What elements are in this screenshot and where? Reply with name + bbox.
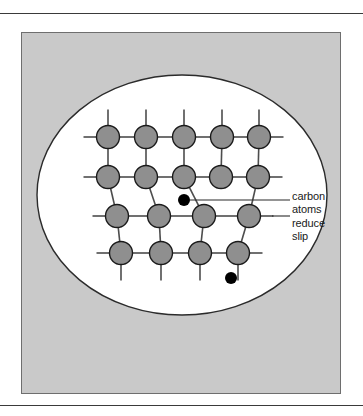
carbon-atom	[225, 272, 237, 284]
metal-atom	[150, 242, 173, 265]
metal-atom	[210, 166, 233, 189]
metal-atom	[248, 126, 271, 149]
label-line-3: reduce	[292, 217, 362, 230]
metal-atom	[110, 242, 133, 265]
carbon-atoms-label: carbon atoms reduce slip	[292, 190, 362, 244]
metal-atom	[238, 205, 261, 228]
label-line-1: carbon	[292, 190, 362, 203]
carbon-atom	[178, 194, 190, 206]
metal-atom	[173, 166, 196, 189]
metal-atom	[247, 166, 270, 189]
metal-atom	[148, 205, 171, 228]
figure-page: carbon atoms reduce slip	[0, 0, 363, 416]
metal-atom	[97, 126, 120, 149]
metal-atom	[135, 126, 158, 149]
metal-atom	[189, 242, 212, 265]
bond-line	[160, 227, 161, 241]
bottom-horizontal-rule	[0, 405, 363, 406]
metal-atom	[97, 166, 120, 189]
metal-atom	[227, 242, 250, 265]
metal-atom	[211, 126, 234, 149]
metal-atom	[173, 126, 196, 149]
label-line-2: atoms	[292, 203, 362, 216]
metal-atom	[193, 205, 216, 228]
metal-atom	[135, 166, 158, 189]
label-line-4: slip	[292, 230, 362, 243]
metal-atom	[106, 205, 129, 228]
